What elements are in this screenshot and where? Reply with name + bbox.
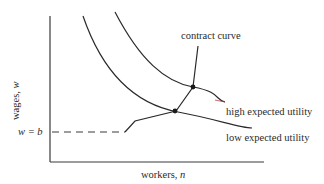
x-axis-label-text: workers, [141,169,180,180]
high-utility-curve [115,12,225,102]
contract-curve-smooth [125,111,174,132]
low-utility-label: low expected utility [226,133,309,144]
high-utility-label: high expected utility [226,107,312,118]
high-utility-intersection-point [191,85,196,90]
y-axis-label: wages, w [10,81,21,120]
contract-curve-label: contract curve [181,31,241,42]
x-axis-label: workers, n [141,170,185,181]
diagram-plot [0,0,324,184]
wage-employment-diagram: contract curve high expected utility low… [0,0,324,184]
contract-curve [125,46,198,132]
low-utility-intersection-point [173,109,178,114]
y-axis-variable: w [10,81,21,88]
reservation-wage-label: w = b [18,127,43,138]
y-axis-label-text: wages, [10,89,21,121]
x-axis-variable: n [180,169,185,180]
